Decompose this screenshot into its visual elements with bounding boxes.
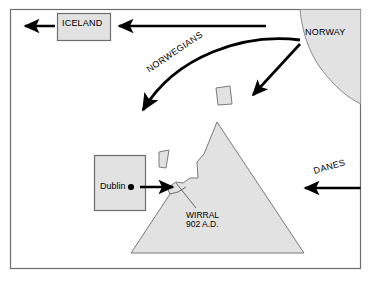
dublin-city-dot — [128, 184, 134, 190]
label-wirral-date: 902 A.D. — [186, 220, 219, 229]
label-wirral: WIRRAL 902 A.D. — [186, 211, 219, 229]
label-norway: NORWAY — [305, 28, 346, 38]
map-figure: ICELAND NORWAY NORWEGIANS DANES Dublin W… — [0, 0, 374, 281]
label-dublin: Dublin — [100, 182, 126, 192]
island-shape-large — [216, 86, 232, 105]
label-iceland: ICELAND — [62, 19, 102, 29]
